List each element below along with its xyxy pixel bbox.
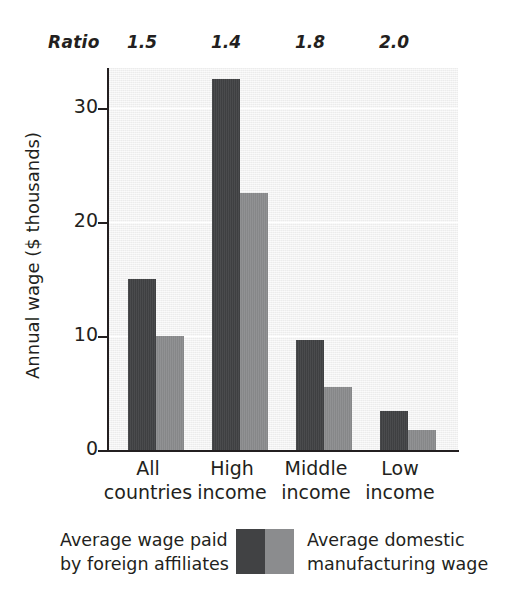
bar-texture: [380, 411, 408, 450]
gridline-20: [108, 222, 458, 223]
y-tick-mark-10: [98, 336, 107, 338]
y-tick-label-20: 20: [48, 209, 98, 231]
bar-domestic-all-countries: [156, 336, 184, 450]
ratio-row-label: Ratio: [48, 32, 100, 52]
legend-swatch-light: [265, 529, 294, 574]
chart-legend: Average wage paid by foreign affiliates …: [0, 524, 506, 586]
bar-domestic-middle-income: [324, 387, 352, 450]
bar-foreign-all-countries: [128, 279, 156, 450]
x-axis-line: [107, 450, 459, 452]
bar-domestic-low-income: [408, 430, 436, 450]
ratio-annotation-row: Ratio 1.5 1.4 1.8 2.0: [0, 32, 506, 58]
chart-figure: Ratio 1.5 1.4 1.8 2.0 Annual wage ($ tho…: [0, 0, 506, 601]
y-axis-title: Annual wage ($ thousands): [22, 96, 43, 416]
bar-texture: [212, 79, 240, 450]
bar-texture: [156, 336, 184, 450]
ratio-value-high-income: 1.4: [196, 32, 256, 52]
bar-texture: [296, 340, 324, 450]
bar-texture: [128, 279, 156, 450]
bar-foreign-middle-income: [296, 340, 324, 450]
x-category-low-income-line1: Low: [340, 456, 460, 480]
legend-swatch: [236, 529, 294, 574]
y-tick-mark-0: [98, 450, 107, 452]
x-category-low-income: Low income: [340, 456, 460, 504]
ratio-value-middle-income: 1.8: [280, 32, 340, 52]
y-tick-mark-30: [98, 108, 107, 110]
y-tick-label-30: 30: [48, 95, 98, 117]
y-axis-line: [107, 68, 109, 451]
plot-area: [108, 68, 458, 450]
y-tick-mark-20: [98, 222, 107, 224]
bar-texture: [324, 387, 352, 450]
bar-foreign-low-income: [380, 411, 408, 450]
gridline-30: [108, 108, 458, 109]
legend-label-foreign-affiliates: Average wage paid by foreign affiliates: [60, 528, 245, 576]
bar-domestic-high-income: [240, 193, 268, 450]
bar-texture: [408, 430, 436, 450]
ratio-value-low-income: 2.0: [364, 32, 424, 52]
ratio-value-all-countries: 1.5: [112, 32, 172, 52]
bar-texture: [240, 193, 268, 450]
legend-swatch-dark: [236, 529, 265, 574]
y-tick-label-10: 10: [48, 323, 98, 345]
x-category-low-income-line2: income: [340, 480, 460, 504]
bar-foreign-high-income: [212, 79, 240, 450]
legend-label-domestic-manufacturing: Average domestic manufacturing wage: [307, 528, 506, 576]
